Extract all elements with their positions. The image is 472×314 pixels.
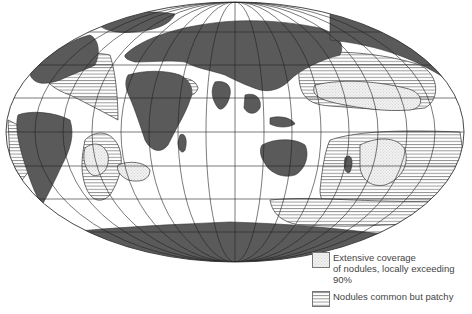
- legend-item-patchy: Nodules common but patchy: [312, 291, 472, 307]
- map-legend: Extensive coverage of nodules, locally e…: [312, 252, 472, 313]
- legend-label-extensive: Extensive coverage of nodules, locally e…: [333, 252, 472, 285]
- hatched-pattern-swatch-icon: [312, 291, 330, 307]
- legend-item-extensive: Extensive coverage of nodules, locally e…: [312, 252, 472, 285]
- legend-label-patchy: Nodules common but patchy: [333, 291, 453, 302]
- dotted-pattern-swatch-icon: [312, 252, 330, 268]
